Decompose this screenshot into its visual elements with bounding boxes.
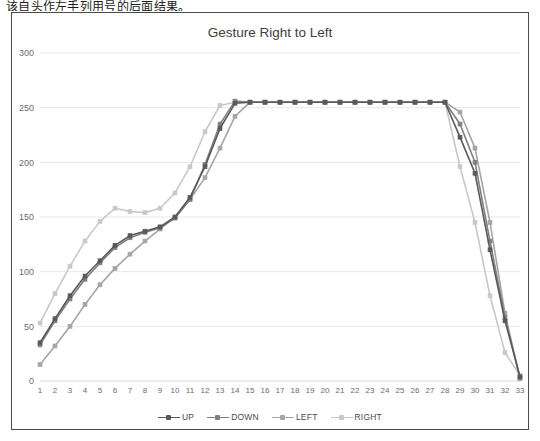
series-marker-up-23	[368, 100, 372, 104]
series-marker-up-17	[278, 100, 282, 104]
legend-swatch-up	[158, 413, 180, 422]
y-tick-label-50: 50	[24, 322, 34, 332]
series-marker-up-8	[143, 229, 147, 233]
y-tick-label-200: 200	[19, 158, 34, 168]
x-tick-label-19: 19	[306, 386, 315, 395]
series-marker-up-24	[383, 100, 387, 104]
y-tick-label-0: 0	[29, 376, 34, 386]
series-marker-left-7	[128, 252, 132, 256]
series-marker-up-13	[218, 127, 222, 131]
x-tick-label-16: 16	[261, 386, 270, 395]
x-tick-label-14: 14	[231, 386, 240, 395]
legend-item-up[interactable]: UP	[158, 412, 194, 422]
x-tick-label-6: 6	[113, 386, 118, 395]
x-tick-label-25: 25	[396, 386, 405, 395]
x-tick-label-5: 5	[98, 386, 103, 395]
series-left	[38, 100, 522, 380]
series-line-up	[40, 102, 520, 376]
series-marker-up-26	[413, 100, 417, 104]
x-tick-label-33: 33	[516, 386, 525, 395]
legend-swatch-right	[331, 413, 353, 422]
series-marker-up-3	[68, 294, 72, 298]
series-marker-left-6	[113, 266, 117, 270]
x-tick-label-11: 11	[186, 386, 195, 395]
series-marker-up-19	[308, 100, 312, 104]
series-line-left	[40, 102, 520, 379]
series-marker-left-3	[68, 324, 72, 328]
series-marker-up-2	[53, 317, 57, 321]
x-tick-label-21: 21	[336, 386, 345, 395]
x-tick-label-23: 23	[366, 386, 375, 395]
series-marker-right-7	[128, 210, 132, 214]
legend-item-down[interactable]: DOWN	[207, 412, 259, 422]
series-marker-left-13	[218, 146, 222, 150]
series-marker-down-30	[473, 160, 477, 164]
series-marker-up-27	[428, 100, 432, 104]
series-marker-left-5	[98, 283, 102, 287]
series-marker-down-29	[458, 122, 462, 126]
series-marker-right-32	[503, 351, 507, 355]
series-marker-up-31	[488, 248, 492, 252]
x-tick-label-4: 4	[83, 386, 88, 395]
x-tick-label-17: 17	[276, 386, 285, 395]
series-marker-left-29	[458, 110, 462, 114]
series-marker-up-9	[158, 225, 162, 229]
series-marker-left-1	[38, 363, 42, 367]
series-marker-up-6	[113, 244, 117, 248]
chart-container: Gesture Right to Left 050100150200250300…	[11, 12, 529, 430]
legend-label-right: RIGHT	[355, 412, 382, 422]
legend-item-right[interactable]: RIGHT	[331, 412, 382, 422]
series-marker-up-28	[443, 100, 447, 104]
series-marker-up-20	[323, 100, 327, 104]
series-marker-right-29	[458, 165, 462, 169]
series-marker-up-18	[293, 100, 297, 104]
series-marker-up-1	[38, 341, 42, 345]
y-tick-label-250: 250	[19, 103, 34, 113]
series-line-right	[40, 102, 520, 375]
legend-item-left[interactable]: LEFT	[272, 412, 318, 422]
y-tick-label-300: 300	[19, 48, 34, 58]
series-marker-up-22	[353, 100, 357, 104]
series-marker-up-14	[233, 101, 237, 105]
x-tick-label-28: 28	[441, 386, 450, 395]
x-tick-label-3: 3	[68, 386, 73, 395]
x-tick-label-30: 30	[471, 386, 480, 395]
legend-swatch-left	[272, 413, 294, 422]
series-marker-up-25	[398, 100, 402, 104]
series-marker-right-4	[83, 239, 87, 243]
x-tick-label-15: 15	[246, 386, 255, 395]
series-marker-right-1	[38, 321, 42, 325]
x-tick-label-13: 13	[216, 386, 225, 395]
series-marker-up-16	[263, 100, 267, 104]
series-marker-left-4	[83, 303, 87, 307]
series-marker-right-12	[203, 130, 207, 134]
series-marker-right-9	[158, 206, 162, 210]
x-tick-label-32: 32	[501, 386, 510, 395]
x-tick-label-7: 7	[128, 386, 133, 395]
series-marker-up-11	[188, 195, 192, 199]
series-marker-right-6	[113, 206, 117, 210]
series-marker-up-12	[203, 165, 207, 169]
x-tick-label-22: 22	[351, 386, 360, 395]
x-tick-label-18: 18	[291, 386, 300, 395]
x-tick-label-26: 26	[411, 386, 420, 395]
series-marker-right-3	[68, 264, 72, 268]
y-tick-label-150: 150	[19, 212, 34, 222]
series-marker-right-5	[98, 219, 102, 223]
series-marker-up-21	[338, 100, 342, 104]
legend-label-left: LEFT	[296, 412, 318, 422]
series-marker-left-31	[488, 221, 492, 225]
series-marker-up-4	[83, 274, 87, 278]
x-tick-label-12: 12	[201, 386, 210, 395]
x-tick-label-31: 31	[486, 386, 495, 395]
series-marker-left-14	[233, 115, 237, 119]
series-marker-up-7	[128, 234, 132, 238]
series-marker-right-13	[218, 104, 222, 108]
chart-legend: UPDOWNLEFTRIGHT	[12, 412, 528, 422]
legend-label-down: DOWN	[231, 412, 259, 422]
series-line-down	[40, 101, 520, 378]
x-tick-label-1: 1	[38, 386, 43, 395]
page-caption-text: 该自头作左手列用号的后面结果。	[6, 0, 406, 11]
series-marker-right-10	[173, 191, 177, 195]
chart-plot-area: 0501001502002503001234567891011121314151…	[12, 13, 528, 429]
